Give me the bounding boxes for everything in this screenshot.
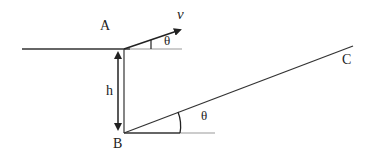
label-theta-top: θ [164, 33, 170, 48]
label-a: A [100, 18, 111, 33]
height-arrow [114, 51, 122, 131]
label-c: C [342, 52, 351, 67]
projectile-diagram: A v θ h B θ C [0, 0, 372, 150]
incline-line-bc [124, 46, 353, 133]
label-b: B [113, 136, 122, 150]
label-theta-bottom: θ [201, 108, 207, 123]
velocity-vector [124, 30, 180, 49]
angle-arc-b [178, 112, 181, 133]
label-h: h [106, 83, 113, 98]
label-v: v [177, 6, 184, 22]
